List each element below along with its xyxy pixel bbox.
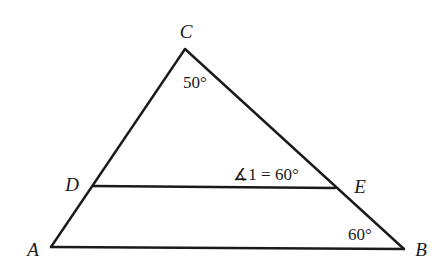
point-label-b: B — [415, 239, 427, 260]
segment-de — [93, 186, 335, 188]
angle-label-1: ∡1 = 60° — [233, 165, 298, 184]
point-label-c: C — [180, 21, 193, 42]
angle-label-c: 50° — [183, 73, 207, 92]
segment-cb — [185, 49, 404, 249]
triangle-diagram: C D E A B 50° ∡1 = 60° 60° — [0, 0, 448, 278]
angle-label-b: 60° — [348, 225, 372, 244]
segment-ac — [51, 49, 185, 247]
point-label-d: D — [64, 174, 79, 195]
segment-ab — [51, 247, 404, 249]
point-label-a: A — [25, 239, 39, 260]
point-label-e: E — [353, 176, 366, 197]
